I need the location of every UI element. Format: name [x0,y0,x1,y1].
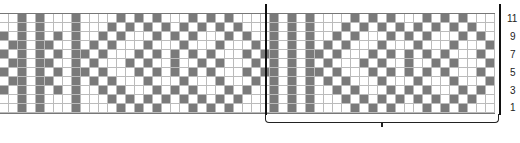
chart-cell [99,41,108,50]
chart-cell [207,50,216,59]
chart-cell [207,23,216,32]
chart-cell [387,50,396,59]
chart-cell [45,50,54,59]
chart-cell [126,59,135,68]
chart-cell [279,104,288,113]
chart-cell [99,50,108,59]
chart-cell [126,14,135,23]
chart-cell [396,95,405,104]
chart-cell [369,59,378,68]
chart-cell [81,59,90,68]
chart-cell [216,41,225,50]
chart-cell [18,95,27,104]
chart-cell [450,77,459,86]
chart-cell [423,23,432,32]
chart-cell [189,68,198,77]
chart-cell [36,23,45,32]
chart-cell [90,23,99,32]
chart-cell [270,59,279,68]
chart-cell [333,77,342,86]
chart-cell [54,14,63,23]
chart-cell [144,41,153,50]
chart-cell [252,104,261,113]
chart-cell [297,50,306,59]
chart-cell [99,32,108,41]
chart-cell [63,95,72,104]
chart-cell [243,68,252,77]
chart-cell [324,68,333,77]
chart-cell [216,59,225,68]
chart-cell [54,104,63,113]
chart-cell [414,68,423,77]
chart-cell [189,59,198,68]
chart-cell [279,95,288,104]
chart-cell [63,59,72,68]
chart-cell [36,77,45,86]
chart-cell [63,77,72,86]
chart-cell [162,14,171,23]
chart-cell [414,32,423,41]
chart-cell [72,32,81,41]
chart-cell [144,77,153,86]
chart-cell [405,104,414,113]
chart-cell [225,95,234,104]
chart-cell [135,50,144,59]
chart-cell [486,104,495,113]
chart-cell [27,104,36,113]
chart-cell [162,32,171,41]
chart-cell [63,14,72,23]
chart-cell [477,14,486,23]
chart-cell [405,95,414,104]
chart-cell [414,59,423,68]
chart-cell [135,77,144,86]
chart-cell [270,68,279,77]
chart-cell [72,104,81,113]
chart-cell [324,77,333,86]
chart-cell [468,32,477,41]
chart-cell [117,50,126,59]
chart-cell [279,14,288,23]
chart-cell [360,86,369,95]
chart-cell [27,14,36,23]
chart-cell [387,59,396,68]
chart-cell [207,68,216,77]
chart-cell [315,50,324,59]
chart-cell [108,86,117,95]
chart-cell [378,14,387,23]
chart-cell [315,95,324,104]
chart-cell [351,59,360,68]
chart-cell [288,86,297,95]
chart-cell [153,68,162,77]
chart-cell [459,14,468,23]
chart-cell [63,104,72,113]
chart-cell [45,104,54,113]
chart-cell [477,23,486,32]
chart-cell [360,41,369,50]
chart-cell [81,95,90,104]
chart-cell [306,86,315,95]
chart-cell [378,59,387,68]
chart-cell [405,59,414,68]
chart-cell [117,41,126,50]
chart-cell [405,41,414,50]
chart-cell [441,59,450,68]
chart-cell [306,95,315,104]
chart-cell [324,59,333,68]
chart-cell [9,14,18,23]
chart-cell [432,14,441,23]
chart-cell [297,14,306,23]
chart-cell [369,23,378,32]
chart-cell [117,68,126,77]
chart-cell [36,104,45,113]
chart-cell [72,95,81,104]
chart-cell [396,14,405,23]
chart-cell [9,32,18,41]
chart-cell [432,68,441,77]
chart-cell [333,50,342,59]
chart-cell [90,14,99,23]
chart-cell [36,41,45,50]
chart-cell [81,68,90,77]
chart-cell [72,50,81,59]
chart-cell [162,50,171,59]
chart-cell [198,77,207,86]
